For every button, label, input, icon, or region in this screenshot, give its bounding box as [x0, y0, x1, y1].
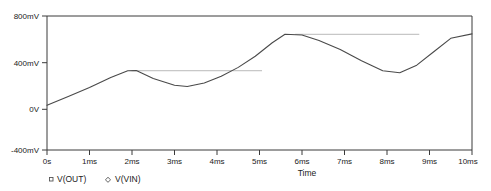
x-tick-label: 4ms [209, 157, 224, 166]
legend-label-vout: V(OUT) [57, 174, 86, 184]
x-axis-title: Time [298, 168, 317, 178]
x-tick-label: 6ms [294, 157, 309, 166]
y-tick-label: -400mV [11, 146, 40, 155]
y-tick-label: 400mV [14, 59, 40, 68]
x-tick-label: 0s [43, 157, 51, 166]
x-tick-label: 10ms [458, 157, 478, 166]
x-tick-label: 1ms [82, 157, 97, 166]
x-tick-label: 7ms [337, 157, 352, 166]
waveform-plot-panel: 800mV 400mV 0V -400mV 0s 1ms 2ms 3ms 4ms… [0, 0, 491, 191]
y-tick-label: 800mV [14, 12, 40, 21]
waveform-chart[interactable]: 800mV 400mV 0V -400mV 0s 1ms 2ms 3ms 4ms… [0, 0, 491, 191]
y-tick-label: 0V [29, 105, 39, 114]
x-tick-label: 9ms [422, 157, 437, 166]
x-tick-label: 8ms [379, 157, 394, 166]
x-tick-label: 5ms [252, 157, 267, 166]
x-tick-label: 2ms [124, 157, 139, 166]
x-tick-label: 3ms [167, 157, 182, 166]
chart-background [0, 0, 491, 191]
legend-label-vin: V(VIN) [115, 174, 141, 184]
